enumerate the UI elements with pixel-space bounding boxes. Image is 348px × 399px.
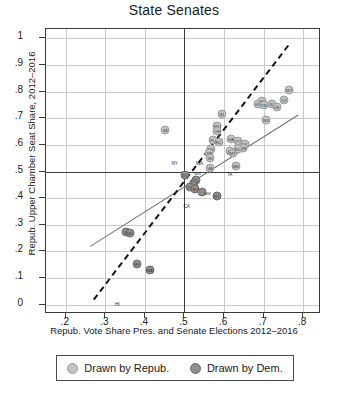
data-point-label: NM bbox=[204, 190, 211, 195]
y-tick-mark bbox=[39, 64, 45, 65]
gridline-horizontal bbox=[46, 65, 319, 66]
y-tick-mark bbox=[39, 197, 45, 198]
y-tick-label: 0 bbox=[0, 297, 23, 308]
y-tick-label: .6 bbox=[0, 137, 23, 148]
x-tick-label: .2 bbox=[52, 316, 78, 327]
data-point-label: OK bbox=[274, 105, 280, 110]
x-tick-label: .8 bbox=[289, 316, 315, 327]
x-tick-label: .4 bbox=[131, 316, 157, 327]
y-tick-label: .4 bbox=[0, 190, 23, 201]
y-tick-label: .9 bbox=[0, 57, 23, 68]
fit-line-dashed bbox=[93, 45, 289, 301]
gridline-horizontal bbox=[46, 38, 319, 39]
data-point-label: WY bbox=[286, 88, 293, 93]
data-point-label: IN bbox=[220, 112, 224, 117]
gridline-horizontal bbox=[46, 278, 319, 279]
y-tick-mark bbox=[39, 304, 45, 305]
legend-label-repub: Drawn by Repub. bbox=[84, 362, 169, 374]
gridline-horizontal bbox=[46, 92, 319, 93]
legend-item-dem: Drawn by Dem. bbox=[190, 362, 283, 374]
legend-item-repub: Drawn by Repub. bbox=[67, 362, 169, 374]
gridline-horizontal bbox=[46, 305, 319, 306]
y-tick-label: .3 bbox=[0, 217, 23, 228]
data-point-label: SD bbox=[235, 147, 241, 152]
data-point-label: MA bbox=[147, 267, 153, 272]
y-tick-label: .2 bbox=[0, 243, 23, 254]
data-point-label: MD bbox=[127, 231, 134, 236]
legend-label-dem: Drawn by Dem. bbox=[207, 362, 283, 374]
y-tick-mark bbox=[39, 277, 45, 278]
y-tick-label: .7 bbox=[0, 110, 23, 121]
x-tick-label: .6 bbox=[210, 316, 236, 327]
legend-dot-repub bbox=[67, 363, 78, 374]
x-tick-label: .3 bbox=[91, 316, 117, 327]
y-tick-label: 1 bbox=[0, 30, 23, 41]
gridline-horizontal bbox=[46, 198, 319, 199]
data-point-label: MN bbox=[194, 171, 201, 176]
data-point-label: ND bbox=[263, 118, 269, 123]
data-point-label: UT bbox=[281, 98, 287, 103]
x-tick-label: .5 bbox=[170, 316, 196, 327]
gridline-horizontal bbox=[46, 225, 319, 226]
data-point-label: NY bbox=[171, 161, 177, 166]
data-point-label: ME bbox=[233, 163, 239, 168]
data-point-label: NC bbox=[215, 139, 221, 144]
data-point-label: HI bbox=[115, 302, 120, 307]
gridline-vertical bbox=[105, 29, 106, 312]
y-tick-mark bbox=[39, 117, 45, 118]
data-point-label: OH bbox=[214, 129, 220, 134]
data-point-label: WI bbox=[208, 155, 213, 160]
y-tick-label: .8 bbox=[0, 84, 23, 95]
data-point-label: IA bbox=[228, 172, 232, 177]
data-point-label: NV bbox=[214, 194, 220, 199]
plot-area: MIINMOOHFLNCGANHPAWIKSSDTNIDOKUTWYNDKYLA… bbox=[45, 28, 320, 313]
data-point-label: VA bbox=[207, 166, 212, 171]
gridline-horizontal bbox=[46, 145, 319, 146]
x-tick-label: .7 bbox=[250, 316, 276, 327]
data-point-label: TN bbox=[261, 103, 267, 108]
y-tick-mark bbox=[39, 144, 45, 145]
data-point-label: RI bbox=[135, 261, 139, 266]
data-point-label: CA bbox=[184, 203, 190, 208]
y-tick-label: .1 bbox=[0, 270, 23, 281]
data-point-label: WA bbox=[196, 161, 203, 166]
data-point-label: DC bbox=[182, 173, 188, 178]
y-axis-label: Repub. Upper Chamber Seat Share, 2012–20… bbox=[26, 24, 37, 284]
gridline-horizontal bbox=[46, 118, 319, 119]
y-tick-mark bbox=[39, 224, 45, 225]
y-tick-mark bbox=[39, 171, 45, 172]
gridline-vertical bbox=[264, 29, 265, 312]
gridline-vertical bbox=[224, 29, 225, 312]
gridline-vertical bbox=[303, 29, 304, 312]
y-tick-mark bbox=[39, 37, 45, 38]
chart-title: State Senates bbox=[0, 2, 348, 18]
data-point-label: MI bbox=[163, 128, 168, 133]
y-tick-label: .5 bbox=[0, 164, 23, 175]
gridline-horizontal bbox=[46, 251, 319, 252]
figure: State Senates Repub. Upper Chamber Seat … bbox=[0, 0, 348, 399]
legend-dot-dem bbox=[190, 363, 201, 374]
legend: Drawn by Repub. Drawn by Dem. bbox=[56, 355, 294, 381]
gridline-vertical bbox=[66, 29, 67, 312]
y-tick-mark bbox=[39, 91, 45, 92]
y-tick-mark bbox=[39, 250, 45, 251]
